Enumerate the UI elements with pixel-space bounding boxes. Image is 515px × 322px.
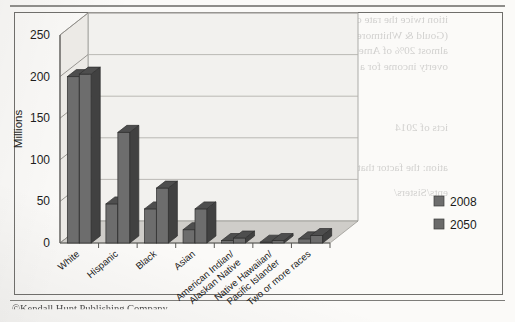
legend-swatch <box>434 219 444 229</box>
bar-front-face <box>156 188 168 243</box>
bar-side-face <box>168 181 177 243</box>
x-axis-category-line: Asian <box>172 248 197 272</box>
bar-front-face <box>272 241 284 243</box>
y-axis-tick-label: 0 <box>43 236 50 250</box>
y-axis-tick-label: 250 <box>30 28 50 42</box>
x-axis-category-label: Black <box>133 248 158 272</box>
bar-front-face <box>144 209 156 243</box>
y-axis-tick-label: 200 <box>30 70 50 84</box>
legend-swatch <box>434 196 444 206</box>
y-axis-tick-label: 150 <box>30 111 50 125</box>
legend-label: 2008 <box>450 195 477 209</box>
bar-front-face <box>106 204 118 243</box>
x-axis-category-label: Asian <box>172 248 197 272</box>
bar-front-face <box>118 132 130 243</box>
bar-side-face <box>130 125 139 243</box>
x-axis-category-label: White <box>55 248 81 272</box>
x-axis-category-label: Hispanic <box>85 248 120 280</box>
bar-front-face <box>79 74 91 243</box>
legend-label: 2050 <box>450 218 477 232</box>
x-axis-category-line: Black <box>133 248 158 272</box>
x-axis-category-line: Hispanic <box>85 248 120 280</box>
bar-front-face <box>222 241 234 243</box>
bar-front-face <box>183 230 195 243</box>
bar-front-face <box>311 236 323 243</box>
x-axis-category-line: White <box>55 248 81 272</box>
bar-side-face <box>207 202 216 243</box>
bar-front-face <box>234 238 246 243</box>
bar-front-face <box>67 77 79 243</box>
bar-chart: 050100150200250MillionsWhiteHispanicBlac… <box>0 0 515 322</box>
bar-front-face <box>299 239 311 243</box>
bar-side-face <box>91 67 100 243</box>
y-axis-tick-label: 50 <box>37 194 51 208</box>
y-axis-tick-label: 100 <box>30 153 50 167</box>
bar-front-face <box>195 209 207 243</box>
y-axis-title: Millions <box>12 110 24 149</box>
